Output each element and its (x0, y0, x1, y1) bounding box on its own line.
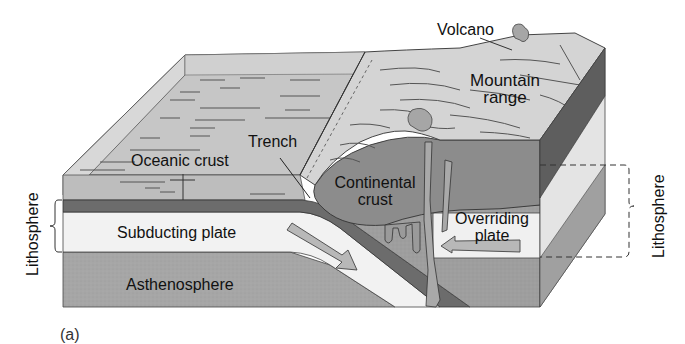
label-subducting-plate: Subducting plate (117, 224, 236, 241)
label-volcano: Volcano (437, 21, 494, 38)
label-asthenosphere: Asthenosphere (126, 276, 234, 293)
label-lithosphere-left: Lithosphere (24, 192, 42, 276)
label-trench: Trench (248, 133, 297, 150)
panel-label: (a) (60, 326, 80, 344)
label-mountain-range: Mountain range (460, 72, 550, 106)
label-lithosphere-right: Lithosphere (650, 174, 668, 258)
label-mountain-range-line2: range (460, 89, 550, 106)
label-mountain-range-line1: Mountain (460, 72, 550, 89)
label-continental-crust-line1: Continental (330, 174, 420, 191)
label-overriding-plate-line1: Overriding (447, 210, 537, 227)
label-continental-crust: Continental crust (330, 174, 420, 208)
label-overriding-plate-line2: plate (447, 227, 537, 244)
label-oceanic-crust: Oceanic crust (131, 152, 229, 169)
label-continental-crust-line2: crust (330, 191, 420, 208)
lithosphere-bracket-left (50, 200, 62, 252)
label-overriding-plate: Overriding plate (447, 210, 537, 244)
